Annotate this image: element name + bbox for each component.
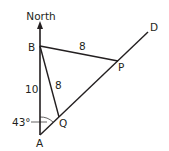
length-bp-label: 8 [79, 40, 86, 52]
angle-arc [40, 117, 53, 122]
point-p-label: P [118, 61, 124, 73]
point-q-label: Q [59, 117, 67, 129]
bearing-diagram: North B 8 P D 10 8 43° Q A [0, 0, 169, 151]
length-bq-label: 8 [55, 79, 62, 91]
north-arrow-icon [37, 21, 43, 29]
north-label: North [26, 10, 55, 22]
point-b-label: B [28, 41, 35, 53]
angle-a-label: 43° [12, 116, 31, 128]
point-a-label: A [36, 137, 44, 149]
length-ab-label: 10 [25, 83, 38, 95]
point-d-label: D [150, 21, 158, 33]
